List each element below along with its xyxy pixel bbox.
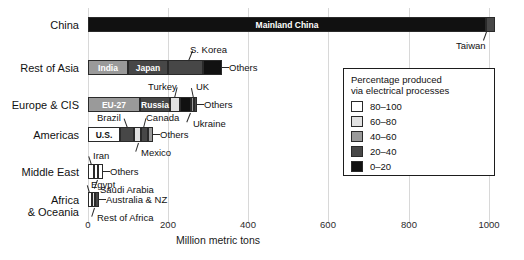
segment-label-mainland-china: Mainland China [89,18,485,33]
bar-americas: U.S. [88,127,153,142]
segment-canada[interactable] [141,127,148,142]
segment-japan[interactable]: Japan [128,60,168,75]
legend-item-60-80[interactable]: 60–80 [351,114,487,128]
row-label-africa-oceania: Africa & Oceania [28,194,79,218]
bar-rest-of-asia: India Japan [88,60,222,75]
segment-us[interactable]: U.S. [88,127,120,142]
row-label-china: China [50,19,79,31]
leader-asia-others [222,67,229,68]
callout-australia-nz: Australia & NZ [106,194,167,205]
leader-mexico [135,143,139,152]
legend-item-80-100[interactable]: 80–100 [351,99,487,113]
callout-s-korea: S. Korea [190,44,227,55]
callout-canada: Canada [146,112,179,123]
callout-uk: UK [196,81,209,92]
segment-eu27[interactable]: EU-27 [88,97,140,112]
leader-australia-nz [99,199,106,200]
xtick-0: 0 [68,219,108,230]
legend-label-0-20: 0–20 [370,161,391,172]
xtick-1000: 1000 [469,219,509,230]
xtick-400: 400 [228,219,268,230]
callout-egypt: Egypt [91,179,115,190]
callout-europe-others: Others [204,99,233,110]
segment-brazil[interactable] [120,127,134,142]
segment-russia[interactable]: Russia [140,97,170,112]
xtick-600: 600 [308,219,348,230]
callout-ukraine: Ukraine [193,118,226,129]
segment-label-eu27: EU-27 [89,98,139,113]
row-label-europe-cis: Europe & CIS [12,99,79,111]
segment-turkey[interactable] [170,97,180,112]
legend-title-line2: via electrical processes [351,85,487,96]
callout-brazil: Brazil [97,112,121,123]
legend-swatch-icon-0-20 [351,161,363,172]
bar-middle-east [88,164,103,179]
segment-india[interactable]: India [88,60,128,75]
legend-label-40-60: 40–60 [370,131,396,142]
legend-item-20-40[interactable]: 20–40 [351,144,487,158]
segment-asia-others[interactable] [203,60,222,75]
callout-iran: Iran [93,150,109,161]
leader-rest-of-africa [91,208,95,217]
legend-item-0-20[interactable]: 0–20 [351,159,487,173]
legend-box: Percentage produced via electrical proce… [343,68,495,176]
legend-item-40-60[interactable]: 40–60 [351,129,487,143]
legend-title-line1: Percentage produced [351,74,487,85]
segment-ukraine[interactable] [180,97,191,112]
callout-mexico: Mexico [141,147,171,158]
leader-europe-others [197,104,204,105]
segment-label-japan: Japan [129,61,167,76]
stacked-bar-chart: China Rest of Asia Europe & CIS Americas… [0,0,524,260]
legend-swatch-icon-80-100 [351,101,363,112]
callout-asia-others: Others [229,62,258,73]
bar-africa-oceania [88,192,99,207]
gridline-600 [328,8,329,224]
leader-americas-others [153,134,160,135]
callout-middle-east-others: Others [110,166,139,177]
legend-label-80-100: 80–100 [370,101,402,112]
leader-middle-east-others [103,171,110,172]
row-label-americas: Americas [33,129,79,141]
row-label-middle-east: Middle East [22,166,79,178]
segment-label-russia: Russia [141,98,169,113]
xtick-800: 800 [389,219,429,230]
legend-label-20-40: 20–40 [370,146,396,157]
segment-mainland-china[interactable]: Mainland China [88,17,486,32]
bar-europe-cis: EU-27 Russia [88,97,197,112]
segment-mexico[interactable] [134,127,141,142]
gridline-400 [248,8,249,224]
legend-title: Percentage produced via electrical proce… [351,74,487,96]
leader-ukraine [186,113,191,123]
x-axis-title-text: Million metric tons [176,234,260,246]
x-axis-title: Million metric tons [0,234,524,246]
callout-turkey: Turkey [148,81,177,92]
row-label-rest-of-asia: Rest of Asia [20,62,79,74]
callout-taiwan: Taiwan [456,40,486,51]
callout-americas-others: Others [160,129,189,140]
legend-swatch-icon-40-60 [351,131,363,142]
legend-swatch-icon-20-40 [351,146,363,157]
segment-label-india: India [89,61,127,76]
segment-taiwan[interactable] [486,17,495,32]
legend-swatch-icon-60-80 [351,116,363,127]
segment-s-korea[interactable] [168,60,203,75]
segment-label-us: U.S. [89,128,119,143]
legend-label-60-80: 60–80 [370,116,396,127]
bar-china: Mainland China [88,17,495,32]
xtick-200: 200 [148,219,188,230]
